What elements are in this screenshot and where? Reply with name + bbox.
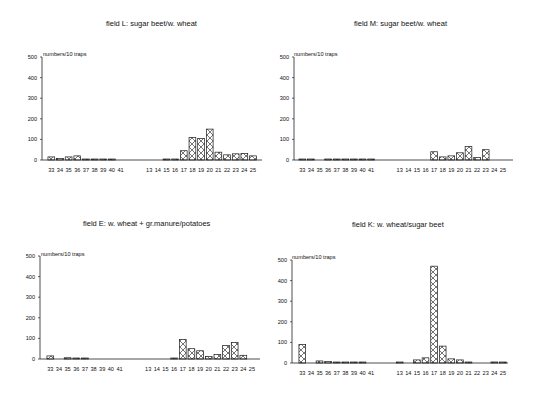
x-tick-label: 19	[448, 370, 454, 376]
bar	[73, 358, 80, 359]
bar	[308, 159, 315, 160]
x-tick-label: 24	[491, 167, 497, 173]
y-tick-label: 200	[26, 315, 35, 321]
chart-title: field M: sugar beet/w. wheat	[354, 19, 447, 28]
x-tick-label: 18	[440, 167, 446, 173]
y-tick-label: 100	[28, 136, 37, 142]
y-tick-label: 100	[26, 335, 35, 341]
x-tick-label: 22	[224, 167, 230, 173]
bar	[457, 153, 464, 160]
bar	[179, 339, 186, 359]
x-tick-label: 39	[99, 366, 105, 372]
bar	[83, 159, 90, 160]
x-tick-label: 14	[405, 167, 411, 173]
x-tick-label: 18	[188, 366, 194, 372]
y-tick-label: 0	[286, 157, 289, 163]
x-tick-label: 33	[299, 167, 305, 173]
bar	[396, 362, 403, 363]
x-tick-label: 23	[233, 167, 239, 173]
bar	[223, 346, 230, 359]
y-tick-label: 400	[28, 75, 37, 81]
x-tick-label: 16	[422, 370, 428, 376]
x-tick-label: 15	[414, 370, 420, 376]
bar	[414, 360, 421, 363]
x-tick-label: 13	[397, 370, 403, 376]
bar	[232, 154, 239, 160]
x-tick-label: 38	[90, 366, 96, 372]
bar	[351, 159, 358, 160]
bar	[368, 159, 375, 160]
x-tick-label: 39	[351, 167, 357, 173]
x-tick-label: 36	[74, 167, 80, 173]
bar	[474, 158, 481, 160]
bar	[109, 159, 116, 160]
x-tick-label: 34	[56, 366, 62, 372]
chart-panel-field-e: field E: w. wheat + gr.manure/potatoes n…	[0, 197, 268, 394]
x-tick-label: 39	[100, 167, 106, 173]
bar	[351, 362, 358, 363]
bar	[100, 159, 107, 160]
x-tick-label: 20	[457, 370, 463, 376]
x-tick-label: 13	[397, 167, 403, 173]
x-tick-label: 41	[117, 167, 123, 173]
bar	[198, 138, 205, 160]
x-tick-label: 24	[241, 167, 247, 173]
bar	[359, 362, 366, 363]
bar	[64, 358, 71, 359]
bar	[359, 159, 366, 160]
y-tick-label: 200	[28, 116, 37, 122]
bar	[241, 153, 248, 160]
bar	[65, 157, 72, 160]
x-tick-label: 37	[334, 370, 340, 376]
bar	[250, 156, 257, 160]
x-tick-label: 35	[316, 167, 322, 173]
bar	[74, 156, 81, 160]
x-tick-label: 33	[47, 366, 53, 372]
bar	[457, 360, 464, 363]
bar	[172, 159, 179, 160]
bar	[333, 159, 340, 160]
x-tick-label: 40	[109, 167, 115, 173]
bar	[439, 346, 446, 363]
x-tick-label: 13	[145, 366, 151, 372]
x-tick-label: 23	[483, 370, 489, 376]
x-tick-label: 41	[368, 167, 374, 173]
x-tick-label: 21	[215, 167, 221, 173]
bar	[82, 358, 89, 359]
y-tick-label: 500	[28, 54, 37, 60]
x-tick-label: 38	[342, 370, 348, 376]
x-tick-label: 35	[316, 370, 322, 376]
bar-chart: 0100200300400500333435363738394041131415…	[268, 0, 537, 190]
x-tick-label: 38	[342, 167, 348, 173]
bar	[316, 361, 323, 363]
x-tick-label: 16	[171, 366, 177, 372]
y-tick-label: 0	[34, 157, 37, 163]
bar	[422, 358, 429, 363]
bar	[439, 157, 446, 160]
y-tick-label: 100	[278, 339, 287, 345]
x-tick-label: 17	[181, 167, 187, 173]
bar	[91, 159, 98, 160]
x-tick-label: 37	[83, 167, 89, 173]
bar	[189, 137, 196, 160]
x-tick-label: 17	[431, 370, 437, 376]
x-tick-label: 37	[82, 366, 88, 372]
y-tick-label: 300	[278, 298, 287, 304]
y-tick-label: 300	[28, 95, 37, 101]
x-tick-label: 24	[491, 370, 497, 376]
y-tick-label: 300	[26, 294, 35, 300]
x-tick-label: 21	[465, 370, 471, 376]
x-tick-label: 40	[108, 366, 114, 372]
x-tick-label: 34	[308, 167, 314, 173]
x-tick-label: 21	[465, 167, 471, 173]
bar	[206, 129, 213, 160]
bar	[448, 156, 455, 160]
y-tick-label: 500	[26, 253, 35, 259]
bar	[482, 150, 489, 160]
y-axis-label: numbers/10 traps	[294, 51, 338, 57]
x-tick-label: 35	[65, 366, 71, 372]
y-axis-label: numbers/10 traps	[41, 251, 85, 257]
x-tick-label: 36	[73, 366, 79, 372]
bar	[240, 355, 247, 359]
bar	[47, 356, 54, 359]
